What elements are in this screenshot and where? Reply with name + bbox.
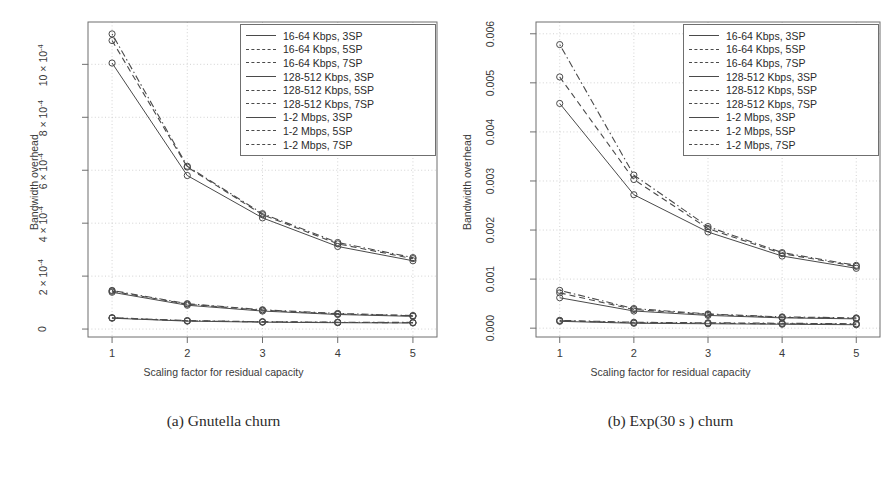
x-axis-title-a: Scaling factor for residual capacity (0, 366, 447, 378)
figure-two-panel-charts: Bandwidth overhead 02 × 10-44 × 10-46 × … (0, 0, 894, 480)
legend-item-label: 16-64 Kbps, 5SP (283, 43, 362, 55)
legend-item-label: 16-64 Kbps, 5SP (726, 43, 805, 55)
legend-item: 128-512 Kbps, 5SP (246, 83, 429, 97)
panel-b: Bandwidth overhead 0.0000.0010.0020.0030… (447, 0, 894, 480)
legend-item: 128-512 Kbps, 3SP (689, 70, 872, 84)
legend-item: 128-512 Kbps, 7SP (689, 97, 872, 111)
legend-item: 128-512 Kbps, 5SP (689, 83, 872, 97)
legend-item-label: 1-2 Mbps, 3SP (283, 111, 352, 123)
legend-item: 1-2 Mbps, 5SP (246, 124, 429, 138)
legend-item: 1-2 Mbps, 3SP (689, 111, 872, 125)
legend-item-label: 128-512 Kbps, 7SP (726, 98, 817, 110)
caption-b: (b) Exp(30 s ) churn (447, 412, 894, 430)
legend-b: 16-64 Kbps, 3SP16-64 Kbps, 5SP16-64 Kbps… (683, 24, 879, 156)
legend-line-swatch (689, 30, 719, 42)
legend-line-swatch (689, 111, 719, 123)
legend-line-swatch (689, 125, 719, 137)
legend-item-label: 16-64 Kbps, 3SP (283, 30, 362, 42)
legend-item: 16-64 Kbps, 5SP (246, 43, 429, 57)
legend-item-label: 128-512 Kbps, 3SP (726, 71, 817, 83)
legend-item: 128-512 Kbps, 7SP (246, 97, 429, 111)
legend-item-label: 1-2 Mbps, 5SP (726, 125, 795, 137)
legend-line-swatch (246, 111, 276, 123)
plot-area-b: Bandwidth overhead 0.0000.0010.0020.0030… (447, 0, 894, 400)
legend-item: 16-64 Kbps, 3SP (246, 29, 429, 43)
legend-line-swatch (246, 139, 276, 151)
legend-item-label: 16-64 Kbps, 7SP (726, 57, 805, 69)
legend-item: 16-64 Kbps, 5SP (689, 43, 872, 57)
plot-area-a: Bandwidth overhead 02 × 10-44 × 10-46 × … (0, 0, 447, 400)
legend-item: 1-2 Mbps, 7SP (689, 138, 872, 152)
legend-line-swatch (689, 71, 719, 83)
legend-item: 1-2 Mbps, 3SP (246, 111, 429, 125)
x-axis-title-b: Scaling factor for residual capacity (447, 366, 894, 378)
legend-a: 16-64 Kbps, 3SP16-64 Kbps, 5SP16-64 Kbps… (240, 24, 436, 156)
legend-line-swatch (246, 98, 276, 110)
legend-item: 1-2 Mbps, 5SP (689, 124, 872, 138)
legend-line-swatch (689, 84, 719, 96)
legend-item-label: 1-2 Mbps, 7SP (726, 139, 795, 151)
legend-item-label: 128-512 Kbps, 5SP (283, 84, 374, 96)
legend-item-label: 128-512 Kbps, 3SP (283, 71, 374, 83)
legend-line-swatch (689, 139, 719, 151)
legend-line-swatch (689, 57, 719, 69)
legend-item-label: 1-2 Mbps, 5SP (283, 125, 352, 137)
legend-item: 16-64 Kbps, 7SP (689, 56, 872, 70)
legend-line-swatch (246, 71, 276, 83)
panel-a: Bandwidth overhead 02 × 10-44 × 10-46 × … (0, 0, 447, 480)
legend-item-label: 16-64 Kbps, 3SP (726, 30, 805, 42)
legend-line-swatch (246, 57, 276, 69)
caption-a: (a) Gnutella churn (0, 412, 447, 430)
legend-item-label: 16-64 Kbps, 7SP (283, 57, 362, 69)
legend-line-swatch (246, 84, 276, 96)
legend-item-label: 1-2 Mbps, 3SP (726, 111, 795, 123)
legend-item: 16-64 Kbps, 7SP (246, 56, 429, 70)
legend-item: 1-2 Mbps, 7SP (246, 138, 429, 152)
legend-line-swatch (246, 125, 276, 137)
legend-item-label: 128-512 Kbps, 5SP (726, 84, 817, 96)
legend-line-swatch (689, 43, 719, 55)
legend-line-swatch (246, 30, 276, 42)
legend-line-swatch (689, 98, 719, 110)
legend-item: 16-64 Kbps, 3SP (689, 29, 872, 43)
legend-item-label: 128-512 Kbps, 7SP (283, 98, 374, 110)
legend-line-swatch (246, 43, 276, 55)
legend-item-label: 1-2 Mbps, 7SP (283, 139, 352, 151)
legend-item: 128-512 Kbps, 3SP (246, 70, 429, 84)
